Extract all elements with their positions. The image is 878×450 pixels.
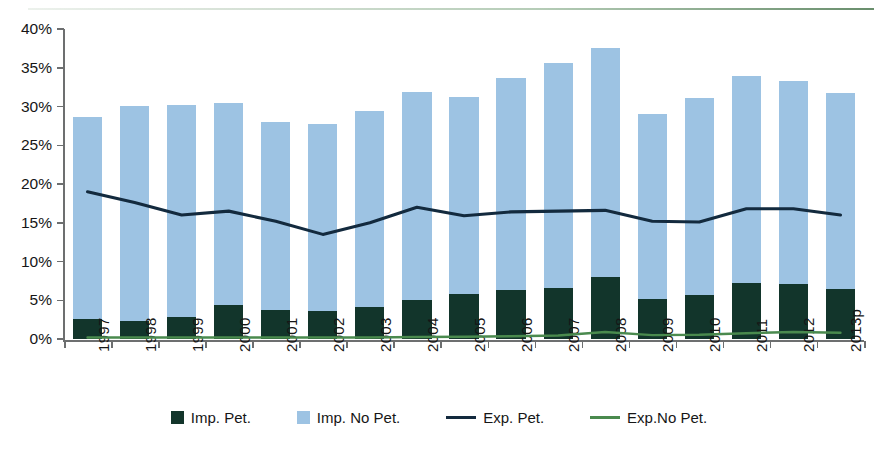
legend-item[interactable]: Exp.No Pet.	[590, 409, 707, 426]
legend-label: Imp. No Pet.	[317, 409, 400, 426]
legend-item[interactable]: Exp. Pet.	[446, 409, 544, 426]
legend-item[interactable]: Imp. No Pet.	[297, 409, 400, 426]
chart-container: 0%5%10%15%20%25%30%35%40% 19971998199920…	[0, 0, 878, 450]
line-series-exp-no-pet	[88, 332, 841, 337]
legend-label: Exp.No Pet.	[627, 409, 707, 426]
legend-label: Imp. Pet.	[191, 409, 251, 426]
legend-item[interactable]: Imp. Pet.	[171, 409, 251, 426]
legend-label: Exp. Pet.	[483, 409, 544, 426]
legend-square-swatch-icon	[171, 411, 184, 424]
legend-line-swatch-icon	[446, 416, 476, 419]
legend-square-swatch-icon	[297, 411, 310, 424]
legend-line-swatch-icon	[590, 416, 620, 419]
line-series-layer	[0, 0, 878, 450]
chart-legend: Imp. Pet.Imp. No Pet.Exp. Pet.Exp.No Pet…	[0, 404, 878, 430]
line-series-exp-pet	[88, 192, 841, 235]
